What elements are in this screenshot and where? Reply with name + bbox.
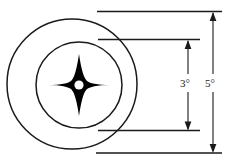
center-hole: [74, 80, 83, 89]
diagram-canvas: 3° 5°: [0, 0, 231, 165]
inner-dim-arrowhead-down: [185, 122, 192, 131]
outer-dim-arrowhead-up: [210, 12, 217, 21]
inner-dim-arrowhead-up: [185, 40, 192, 49]
diagram-svg: [0, 0, 231, 165]
inner-dimension-label: 3°: [180, 78, 190, 89]
outer-dimension-label: 5°: [205, 78, 215, 89]
outer-dim-arrowhead-down: [210, 144, 217, 153]
